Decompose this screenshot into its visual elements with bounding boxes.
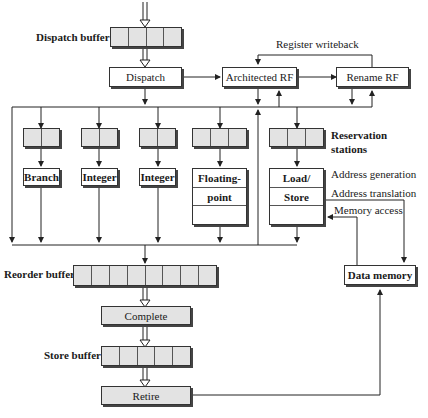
load-store-stage-1: Load/: [270, 169, 323, 188]
register-writeback-label: Register writeback: [276, 38, 359, 51]
memory-access-label: Memory access: [334, 204, 403, 217]
rs-floating-point: [192, 128, 247, 147]
address-generation-label: Address generation: [331, 168, 416, 181]
reservation-stations-label-line1: Reservation: [331, 128, 387, 142]
floating-point-unit: Floating- point: [192, 168, 247, 225]
complete-block: Complete: [101, 306, 191, 325]
branch-unit: Branch: [23, 168, 60, 186]
integer-unit-2: Integer: [139, 168, 176, 186]
reservation-stations-label-line2: stations: [331, 142, 387, 156]
reorder-buffer: [73, 265, 217, 286]
address-translation-label: Address translation: [331, 187, 416, 200]
rs-load-store: [269, 128, 324, 147]
architected-rf-block: Architected RF: [222, 67, 297, 87]
reservation-stations-label: Reservation stations: [331, 128, 387, 156]
rename-rf-block: Rename RF: [336, 67, 409, 87]
retire-block: Retire: [101, 386, 191, 405]
integer-unit-1: Integer: [81, 168, 118, 186]
rs-integer-2: [139, 128, 176, 147]
load-store-stage-3: [270, 206, 323, 224]
store-buffer-label: Store buffer: [44, 349, 101, 362]
load-store-stage-2: Store: [270, 188, 323, 207]
floating-point-stage-2: point: [193, 188, 246, 207]
floating-point-stage-3: [193, 206, 246, 224]
dispatch-buffer-label: Dispatch buffer: [36, 31, 110, 44]
dispatch-block: Dispatch: [109, 67, 182, 87]
reorder-buffer-label: Reorder buffer: [4, 268, 75, 281]
dispatch-buffer: [110, 27, 182, 47]
rs-integer-1: [81, 128, 118, 147]
floating-point-stage-1: Floating-: [193, 169, 246, 188]
store-buffer: [101, 346, 191, 366]
data-memory-block: Data memory: [344, 265, 416, 285]
load-store-unit: Load/ Store: [269, 168, 324, 225]
rs-branch: [23, 128, 60, 147]
